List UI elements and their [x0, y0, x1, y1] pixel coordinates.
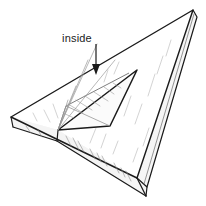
inside-label: inside: [62, 32, 92, 44]
line-drawing-svg: inside: [0, 0, 206, 206]
figure-container: inside: [0, 0, 206, 206]
